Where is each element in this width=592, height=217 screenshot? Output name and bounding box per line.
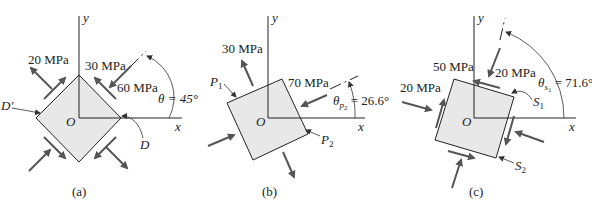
stress-label-30mpa-b: 30 MPa [222,41,263,56]
tension-arrow-bottom-b [283,152,294,177]
rotated-axis-c [500,18,505,40]
angle-label-b: θp2 = 26.6° [333,93,389,112]
y-axis-label-b: y [270,10,278,25]
origin-label-a: O [66,114,76,129]
stress-label-20mpa-left-c: 20 MPa [400,80,441,95]
angle-label-c: θs1 = 71.6° [538,75,592,94]
shear-arrow-bottom-c [448,151,474,158]
s2-pointer [499,157,514,163]
panel-c: y x O 50 MPa 20 MPa 20 MPa θs1 = 71.6° S… [400,10,592,199]
y-axis-label-c: y [476,10,484,25]
caption-b: (b) [262,184,277,199]
compression-arrow-bottom-c [452,160,461,188]
y-axis-label-a: y [81,10,89,25]
compression-arrow-ll [29,150,50,171]
panel-a: y x O 20 MPa 30 MPa 60 MPa θ = 45° D D' … [0,10,198,199]
x-axis-label-c: x [568,119,575,134]
x-axis-label-a: x [174,119,181,134]
origin-label-c: O [462,114,472,129]
stress-label-30mpa: 30 MPa [85,58,126,73]
caption-c: (c) [469,184,483,199]
d-pointer [122,116,143,138]
stress-label-50mpa-c: 50 MPa [433,59,474,74]
point-label-d: D [139,137,150,152]
stress-label-20mpa-top-c: 20 MPa [495,65,536,80]
origin-label-b: O [256,114,266,129]
p2-pointer [306,130,320,136]
s1-pointer [512,91,532,100]
angle-label-a: θ = 45° [158,91,198,106]
stress-transformation-figure: y x O 20 MPa 30 MPa 60 MPa θ = 45° D D' … [0,0,592,217]
compression-arrow-right-c [516,132,544,142]
point-label-s1: S1 [533,94,544,111]
point-label-s2: S2 [515,158,526,175]
rotated-axis-b [330,76,358,89]
p1-pointer [224,84,236,97]
stress-label-70mpa-b: 70 MPa [288,75,329,90]
panel-b: y x O 30 MPa 70 MPa θp2 = 26.6° P1 P2 (b… [208,10,389,199]
point-label-p2: P2 [320,132,333,149]
compression-arrow-left-c [402,102,431,110]
x-axis-label-b: x [357,119,364,134]
compression-arrow-right-b [302,95,327,106]
caption-a: (a) [72,184,86,199]
tension-arrow-lr [106,147,127,168]
stress-label-20mpa: 20 MPa [28,52,69,67]
point-label-d-prime: D' [0,98,13,113]
tension-arrow-ul [31,68,52,89]
stress-label-60mpa: 60 MPa [117,80,158,95]
d-prime-pointer [12,108,40,113]
tension-arrow-top-b [242,61,253,86]
compression-arrow-left-b [208,135,234,146]
point-label-p1: P1 [209,74,222,91]
rotated-axis-a [130,51,146,67]
